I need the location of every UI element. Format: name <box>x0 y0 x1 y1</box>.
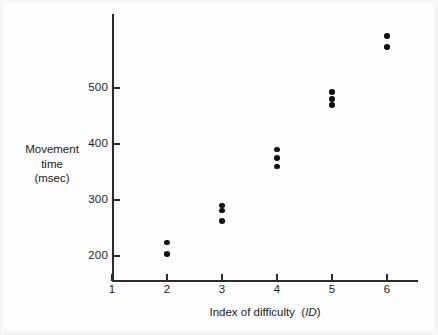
data-point <box>274 164 280 170</box>
y-axis-title-line-2: time <box>14 157 90 172</box>
y-axis-title-line-3: (msec) <box>14 171 90 186</box>
x-axis-tick-label: 5 <box>321 283 343 295</box>
x-axis-tick-label: 2 <box>156 283 178 295</box>
figure-canvas: 200300400500 123456 Movement time (msec)… <box>0 0 438 335</box>
y-axis-tick <box>113 143 120 144</box>
y-axis-tick-label-wrap: 300 <box>70 193 108 207</box>
y-axis-tick-label-wrap: 200 <box>70 249 108 263</box>
x-axis-tick <box>386 274 387 281</box>
y-axis-line <box>112 14 114 281</box>
y-axis-tick-label: 500 <box>74 81 108 93</box>
y-axis-tick <box>113 199 120 200</box>
x-axis-tick <box>276 274 277 281</box>
x-axis-title: Index of difficulty (ID) <box>112 306 418 318</box>
scatter-plot-area: 200300400500 123456 Movement time (msec)… <box>0 0 438 335</box>
x-axis-tick-label: 4 <box>266 283 288 295</box>
x-axis-tick-label: 6 <box>376 283 398 295</box>
y-axis-title-line-1: Movement <box>14 142 90 157</box>
data-point <box>274 147 280 153</box>
x-axis-tick <box>221 274 222 281</box>
x-axis-tick-label: 1 <box>101 283 123 295</box>
data-point <box>384 33 390 39</box>
data-point <box>329 89 335 95</box>
x-axis-tick <box>331 274 332 281</box>
y-axis-tick <box>113 255 120 256</box>
y-axis-title: Movement time (msec) <box>14 142 90 186</box>
data-point <box>274 155 280 161</box>
x-axis-tick-label: 3 <box>211 283 233 295</box>
y-axis-tick-label: 200 <box>74 249 108 261</box>
data-point <box>384 44 390 50</box>
x-axis-tick <box>166 274 167 281</box>
data-point <box>329 102 335 108</box>
data-point <box>164 251 170 257</box>
y-axis-tick-label: 300 <box>74 193 108 205</box>
y-axis-tick <box>113 87 120 88</box>
x-axis-title-paren-close: ) <box>317 306 321 318</box>
x-axis-line <box>112 280 418 282</box>
data-point <box>219 218 225 224</box>
x-axis-title-text: Index of difficulty <box>209 306 294 318</box>
y-axis-tick-label-wrap: 500 <box>70 81 108 95</box>
data-point <box>164 240 170 246</box>
x-axis-tick <box>111 274 112 281</box>
data-point <box>219 208 225 214</box>
x-axis-title-italic-abbrev: ID <box>305 306 317 318</box>
